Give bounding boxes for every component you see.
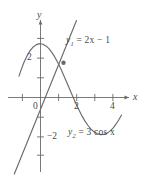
intersection-point-marker xyxy=(61,61,65,65)
y-axis-label: y xyxy=(37,10,41,20)
y-tick-label-2: 2 xyxy=(27,53,32,63)
cosine-eq-body: = 3 cos x xyxy=(76,127,115,137)
x-axis-label: x xyxy=(133,92,137,102)
y-tick-label-minus-2: −2 xyxy=(47,132,57,142)
graph-figure: y x 0 2 4 2 −2 y1 = 2x − 1 y2 = 3 cos x xyxy=(0,0,149,179)
x-tick-label-0: 0 xyxy=(33,102,38,112)
linear-eq-body: = 2x − 1 xyxy=(74,35,110,45)
cosine-equation-label: y2 = 3 cos x xyxy=(68,128,115,139)
y-axis xyxy=(39,20,43,172)
x-axis xyxy=(8,96,129,100)
x-tick-label-2: 2 xyxy=(74,102,79,112)
x-tick-label-4: 4 xyxy=(110,102,115,112)
graph-plot-area xyxy=(0,0,149,179)
cosine-curve xyxy=(19,44,122,135)
linear-equation-label: y1 = 2x − 1 xyxy=(66,36,110,47)
